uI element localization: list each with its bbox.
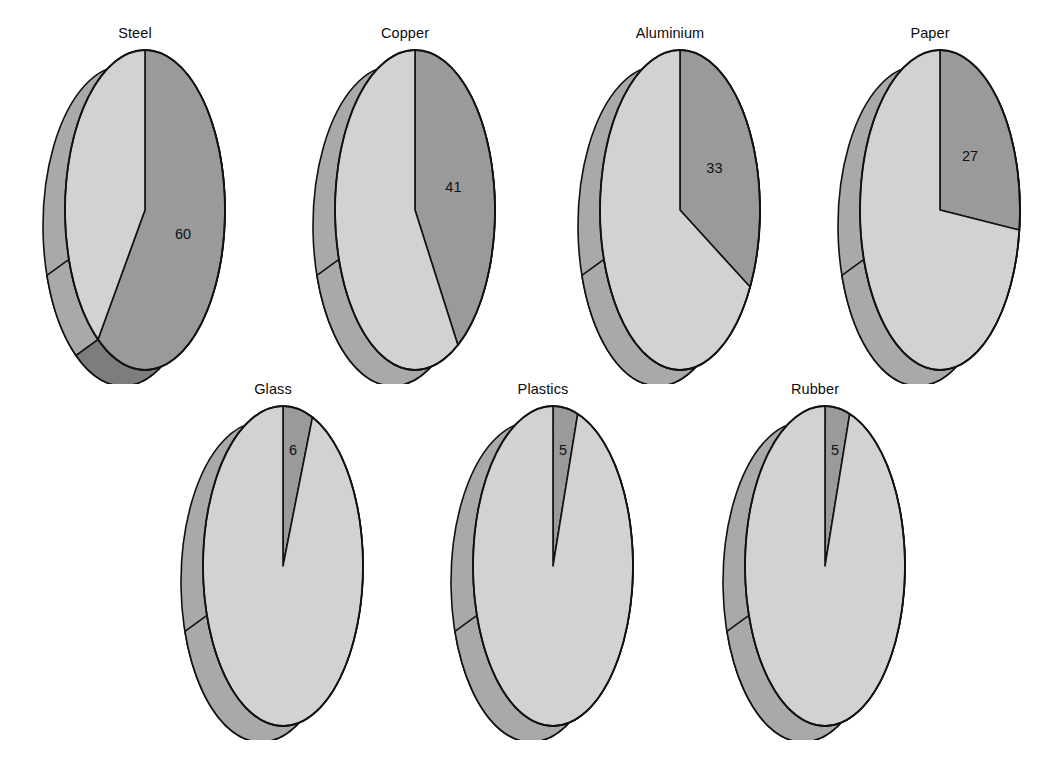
pie-slice-highlighted xyxy=(940,50,1020,230)
pie-slice-remainder xyxy=(745,406,905,726)
pie-chart-cell-steel: Steel60 xyxy=(20,24,250,384)
slice-value-label: 6 xyxy=(289,442,297,458)
pie-chart-title-rubber: Rubber xyxy=(700,380,930,398)
pie-chart-cell-glass: Glass6 xyxy=(158,380,388,740)
pie-chart-aluminium: 33 xyxy=(555,44,785,384)
slice-value-label: 60 xyxy=(175,226,191,242)
pie-chart-cell-paper: Paper27 xyxy=(815,24,1045,384)
pie-slice-remainder xyxy=(473,406,633,726)
pie-chart-paper: 27 xyxy=(815,44,1045,384)
pie-chart-title-plastics: Plastics xyxy=(428,380,658,398)
pie-chart-title-aluminium: Aluminium xyxy=(555,24,785,42)
pie-chart-steel: 60 xyxy=(20,44,250,384)
pie-chart-glass: 6 xyxy=(158,400,388,740)
pie-chart-title-paper: Paper xyxy=(815,24,1045,42)
slice-value-label: 5 xyxy=(559,442,567,458)
pie-chart-copper: 41 xyxy=(290,44,520,384)
pie-chart-title-steel: Steel xyxy=(20,24,250,42)
pie-chart-cell-rubber: Rubber5 xyxy=(700,380,930,740)
slice-value-label: 33 xyxy=(706,160,722,176)
pie-chart-cell-aluminium: Aluminium33 xyxy=(555,24,785,384)
pie-chart-title-glass: Glass xyxy=(158,380,388,398)
pie-chart-rubber: 5 xyxy=(700,400,930,740)
pie-slice-remainder xyxy=(203,406,363,726)
pie-chart-cell-copper: Copper41 xyxy=(290,24,520,384)
slice-value-label: 41 xyxy=(445,179,461,195)
slice-value-label: 27 xyxy=(962,148,978,164)
pie-chart-figure: Steel60Copper41Aluminium33Paper27Glass6P… xyxy=(0,0,1047,761)
pie-chart-plastics: 5 xyxy=(428,400,658,740)
pie-chart-title-copper: Copper xyxy=(290,24,520,42)
pie-chart-cell-plastics: Plastics5 xyxy=(428,380,658,740)
slice-value-label: 5 xyxy=(831,442,839,458)
